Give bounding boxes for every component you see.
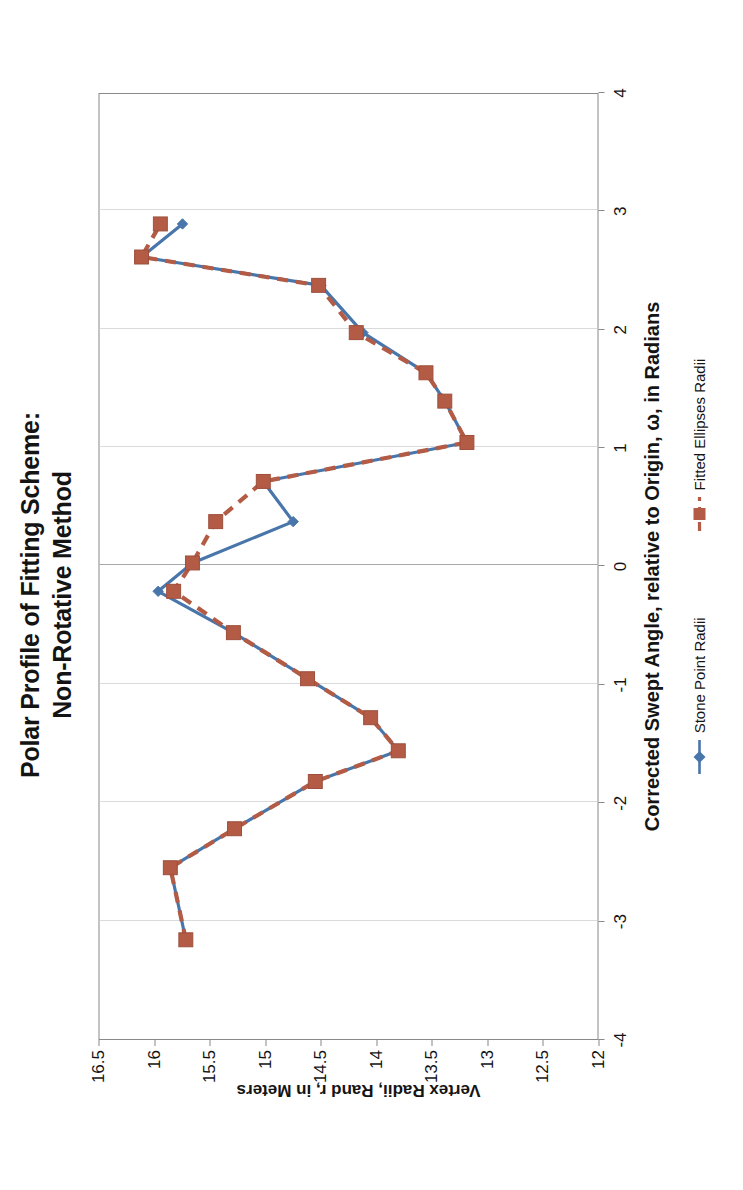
data-point-marker [459,435,473,449]
x-tick-mark [598,447,604,448]
data-point-marker [208,515,222,529]
legend-item: Stone Point Radii [690,617,707,774]
x-tick-mark [598,210,604,211]
data-point-marker [227,822,241,836]
y-tick-mark [265,1040,266,1046]
data-point-marker [300,672,314,686]
data-point-marker [226,626,240,640]
series-line [141,224,466,940]
rotated-chart-wrapper: Polar Profile of Fitting Scheme: Non-Rot… [0,0,743,1190]
x-tick-mark [598,684,604,685]
legend-label: Fitted Ellipses Radii [690,359,707,491]
x-tick-label: -1 [610,677,630,692]
x-tick-label: -3 [610,914,630,929]
y-tick-mark [98,1040,99,1046]
series-plot [99,94,597,1039]
data-point-marker [418,366,432,380]
legend-square-marker-icon [691,497,707,531]
y-tick-mark [598,1040,599,1046]
x-tick-label: -4 [610,1032,630,1047]
scanned-chart-page: Polar Profile of Fitting Scheme: Non-Rot… [0,0,743,1190]
y-tick-mark [487,1040,488,1046]
x-tick-mark [598,92,604,93]
y-tick-label: 12 [588,1050,608,1102]
x-tick-label: 3 [610,207,630,216]
data-point-marker [437,394,451,408]
data-point-marker [349,326,363,340]
y-tick-mark [209,1040,210,1046]
data-point-marker [311,278,325,292]
legend-diamond-marker-icon [691,740,707,774]
chart-canvas: Polar Profile of Fitting Scheme: Non-Rot… [0,0,743,1190]
x-tick-mark [598,802,604,803]
legend-label: Stone Point Radii [690,617,707,733]
plot-area [98,93,598,1040]
data-point-marker [153,217,167,231]
x-tick-mark [598,329,604,330]
y-tick-label: 16.5 [88,1050,108,1102]
x-tick-label: 2 [610,325,630,334]
y-axis-title: Vertex Radii, Rand r, in Meters [158,1080,558,1100]
data-point-marker [391,744,405,758]
y-tick-mark [431,1040,432,1046]
y-tick-mark [154,1040,155,1046]
x-axis-title: Corrected Swept Angle, relative to Origi… [640,93,663,1040]
chart-legend: Stone Point RadiiFitted Ellipses Radii [690,93,707,1040]
x-tick-label: -2 [610,796,630,811]
data-point-marker [163,861,177,875]
x-tick-label: 4 [610,88,630,97]
data-point-marker [256,474,270,488]
data-point-marker [308,774,322,788]
y-tick-mark [320,1040,321,1046]
x-tick-mark [598,921,604,922]
x-tick-label: 1 [610,443,630,452]
x-tick-mark [598,566,604,567]
chart-title-line-2: Non-Rotative Method [46,0,78,1190]
plot-inner [99,94,597,1039]
data-point-marker [134,250,148,264]
data-point-marker [166,584,180,598]
legend-item: Fitted Ellipses Radii [690,359,707,532]
chart-title-line-1: Polar Profile of Fitting Scheme: [15,412,43,778]
data-point-marker [185,556,199,570]
chart-title: Polar Profile of Fitting Scheme: Non-Rot… [14,0,77,1190]
x-tick-label: 0 [610,562,630,571]
data-point-marker [178,933,192,947]
data-point-marker [363,711,377,725]
series-line [141,224,466,940]
y-tick-mark [542,1040,543,1046]
y-tick-mark [376,1040,377,1046]
